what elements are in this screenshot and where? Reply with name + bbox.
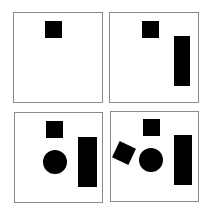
square-shape [45,21,62,38]
square-shape [143,119,160,136]
rectangle-shape [78,137,97,187]
square-shape [142,21,159,38]
square-shape [46,121,63,138]
circle-shape [139,148,163,172]
circle-shape [43,150,67,174]
rectangle-shape [174,135,192,185]
rectangle-shape [174,36,190,86]
